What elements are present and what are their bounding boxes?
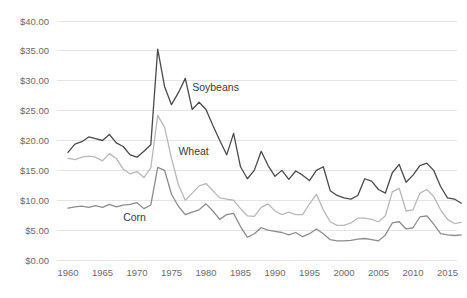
x-axis-tick-label: 2015: [437, 267, 458, 278]
y-axis-tick-label: $35.00: [20, 45, 49, 56]
data-line-soybeans: [68, 49, 461, 203]
y-axis-tick-label: $30.00: [20, 75, 49, 86]
y-axis-tick-labels: $40.00$35.00$30.00$25.00$20.00$15.00$10.…: [20, 16, 49, 266]
y-axis-tick-label: $20.00: [20, 135, 49, 146]
x-axis-tick-label: 1965: [92, 267, 113, 278]
x-axis-tick-label: 1985: [230, 267, 251, 278]
x-axis-tick-label: 2010: [402, 267, 423, 278]
x-axis-tick-label: 1990: [264, 267, 285, 278]
series-label-soybeans: Soybeans: [192, 81, 239, 93]
x-axis-tick-label: 1970: [126, 267, 147, 278]
x-axis-tick-label: 2000: [333, 267, 354, 278]
chart-canvas: $40.00$35.00$30.00$25.00$20.00$15.00$10.…: [0, 0, 467, 298]
series-label-wheat: Wheat: [178, 145, 208, 157]
y-axis-tick-label: $15.00: [20, 165, 49, 176]
x-axis-tick-label: 1995: [299, 267, 320, 278]
y-axis-tick-label: $10.00: [20, 195, 49, 206]
x-axis-tick-label: 1960: [57, 267, 78, 278]
x-axis-tick-labels: 1960196519701975198019851990199520002005…: [57, 267, 458, 278]
y-axis-tick-label: $0.00: [25, 255, 49, 266]
y-axis-tick-label: $25.00: [20, 105, 49, 116]
series-label-corn: Corn: [123, 211, 146, 223]
gridline-group: [57, 21, 457, 260]
y-axis-tick-label: $40.00: [20, 16, 49, 27]
x-axis-tick-label: 1980: [195, 267, 216, 278]
x-axis-tick-label: 1975: [161, 267, 182, 278]
series-annotation-group: SoybeansWheatCorn: [123, 81, 239, 223]
y-axis-tick-label: $5.00: [25, 225, 49, 236]
commodity-prices-line-chart: $40.00$35.00$30.00$25.00$20.00$15.00$10.…: [0, 0, 467, 298]
x-axis-tick-label: 2005: [368, 267, 389, 278]
